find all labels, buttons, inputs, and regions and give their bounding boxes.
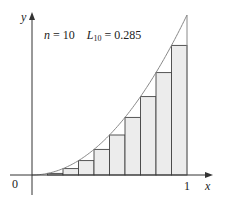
y-axis-label: y	[21, 11, 26, 23]
x-axis-arrow-icon	[205, 172, 213, 178]
riemann-rectangle	[110, 135, 126, 175]
riemann-rectangles	[48, 45, 188, 175]
riemann-rectangle	[141, 97, 157, 175]
riemann-rectangle	[63, 169, 79, 175]
riemann-rectangle	[156, 73, 172, 175]
riemann-rectangle	[94, 149, 110, 175]
sum-annotation: n = 10L10 = 0.285	[44, 29, 141, 43]
riemann-rectangle	[172, 45, 188, 175]
origin-label: 0	[12, 178, 18, 190]
x-axis-label: x	[205, 180, 210, 192]
x-tick-1-label: 1	[184, 180, 190, 192]
L-value: = 0.285	[101, 28, 141, 42]
n-value: = 10	[50, 28, 75, 42]
riemann-rectangle	[125, 117, 141, 175]
y-axis-arrow-icon	[29, 12, 35, 20]
riemann-rectangle	[79, 161, 95, 175]
